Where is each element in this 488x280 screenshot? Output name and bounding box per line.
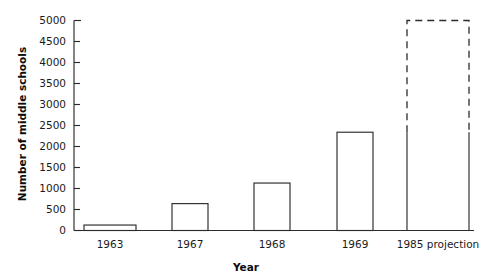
bar [337, 132, 373, 230]
y-axis-tick-label: 5000 [39, 14, 66, 26]
y-axis-tick-marks [74, 21, 81, 231]
y-axis-tick-label: 1000 [39, 182, 66, 194]
y-axis-tick-label: 1500 [39, 161, 66, 173]
x-axis-tick-labels: 19631967196819691985 projection [97, 238, 480, 250]
y-axis-tick-label: 500 [46, 203, 66, 215]
y-axis-tick-labels: 0500100015002000250030003500400045005000 [39, 14, 66, 236]
bar [254, 183, 290, 230]
y-axis-tick-label: 2000 [39, 140, 66, 152]
x-axis-tick-label: 1968 [259, 238, 286, 250]
chart-container: 0500100015002000250030003500400045005000… [0, 0, 488, 280]
y-axis-tick-label: 2500 [39, 119, 66, 131]
y-axis-tick-label: 4000 [39, 56, 66, 68]
x-axis-title: Year [232, 261, 260, 273]
y-axis-title: Number of middle schools [16, 47, 28, 201]
bar [84, 225, 136, 230]
bar [172, 204, 208, 231]
x-axis-tick-label: 1985 projection [397, 238, 480, 250]
bar-chart: 0500100015002000250030003500400045005000… [0, 0, 488, 280]
projection-bar-dashed-outline [407, 21, 469, 133]
y-axis-tick-label: 4500 [39, 35, 66, 47]
bar-series [84, 21, 469, 231]
x-axis-tick-label: 1967 [177, 238, 204, 250]
y-axis-tick-label: 3500 [39, 77, 66, 89]
y-axis-tick-label: 3000 [39, 98, 66, 110]
y-axis-tick-label: 0 [59, 224, 66, 236]
x-axis-tick-label: 1963 [97, 238, 124, 250]
x-axis-tick-label: 1969 [342, 238, 369, 250]
